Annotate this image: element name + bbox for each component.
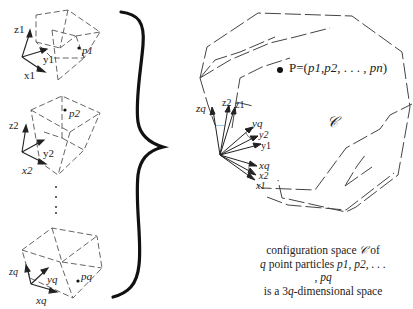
- axis-label-zq: zq: [8, 266, 18, 277]
- caption-line-2: q point particles p1, p2, . . . , pq: [258, 258, 388, 285]
- config-z-dots: .....: [215, 119, 225, 128]
- point-label-p1: p1: [81, 44, 93, 56]
- config-label-z1: z1: [235, 99, 244, 110]
- particle-point-p1: [77, 46, 80, 49]
- config-label-y2: y2: [258, 129, 268, 140]
- axis-label-z1: z1: [14, 23, 24, 35]
- caption-line-1: configuration space 𝒞 of: [258, 244, 388, 258]
- point-label-pq: pq: [80, 270, 93, 282]
- particle-point-p2: [63, 108, 66, 111]
- config-label-z2: z2: [222, 97, 231, 108]
- axis-label-z2: z2: [9, 120, 18, 131]
- configuration-point-P: [277, 67, 283, 73]
- axes-1: [22, 30, 47, 72]
- figure-caption: configuration space 𝒞 of q point particl…: [258, 244, 388, 298]
- particle-cube-q: [22, 228, 102, 298]
- axis-label-x2: x2: [21, 164, 33, 176]
- point-label-p2: p2: [68, 107, 81, 119]
- axis-label-y1: y1: [43, 53, 54, 65]
- axis-label-x1: x1: [24, 69, 35, 81]
- axis-label-xq: xq: [35, 294, 47, 306]
- config-label-x1: x1: [255, 180, 265, 191]
- caption-line-3: is a 3q-dimensional space: [258, 285, 388, 299]
- config-label-y1: y1: [261, 140, 271, 151]
- config-label-zq: zq: [195, 102, 206, 114]
- axis-label-y2: y2: [43, 147, 54, 159]
- vertical-ellipsis: [55, 186, 57, 214]
- curly-brace: [113, 12, 163, 297]
- config-label-yq: yq: [251, 117, 263, 129]
- configuration-point-label: P=(p1,p2, . . . , pn): [289, 60, 387, 75]
- axis-label-yq: yq: [46, 273, 58, 285]
- configuration-space-symbol: 𝒞: [327, 114, 342, 130]
- particle-point-pq: [76, 279, 79, 282]
